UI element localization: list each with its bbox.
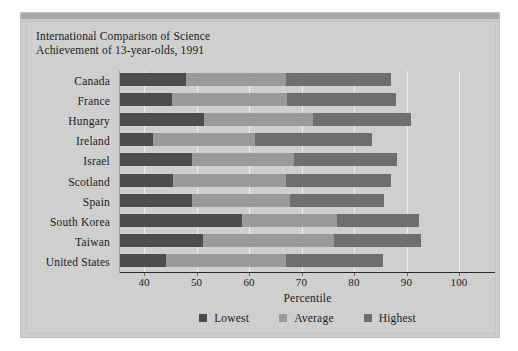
bar-segment-highest[interactable] <box>313 113 412 126</box>
legend-item-highest[interactable]: Highest <box>364 312 416 324</box>
chart-title-line-2: Achievement of 13-year-olds, 1991 <box>36 44 366 58</box>
chart-legend: LowestAverageHighest <box>120 312 495 324</box>
bar-segment-average[interactable] <box>242 214 337 227</box>
bar-row[interactable] <box>120 71 480 91</box>
bar-segment-highest[interactable] <box>286 73 391 86</box>
x-tick-label-50: 50 <box>177 276 217 288</box>
bar-segment-highest[interactable] <box>337 214 418 227</box>
legend-item-lowest[interactable]: Lowest <box>199 312 249 324</box>
bar-row[interactable] <box>120 232 480 252</box>
bar-row[interactable] <box>120 172 480 192</box>
bar-segment-average[interactable] <box>153 133 255 146</box>
legend-label: Highest <box>379 312 416 324</box>
bar-row[interactable] <box>120 111 480 131</box>
legend-item-average[interactable]: Average <box>279 312 334 324</box>
bar-segment-average[interactable] <box>166 254 286 267</box>
plot-area <box>120 71 480 272</box>
legend-swatch-average-icon <box>279 314 287 322</box>
legend-swatch-lowest-icon <box>199 314 207 322</box>
y-axis-label-canada: Canada <box>74 71 110 91</box>
plate-topbar <box>21 13 499 19</box>
bar-segment-lowest[interactable] <box>120 234 203 247</box>
bar-segment-lowest[interactable] <box>120 194 192 207</box>
bar-segment-lowest[interactable] <box>120 153 192 166</box>
bar-row[interactable] <box>120 151 480 171</box>
bar-row[interactable] <box>120 252 480 272</box>
x-tick-label-40: 40 <box>124 276 164 288</box>
bar-segment-highest[interactable] <box>287 93 396 106</box>
y-axis-label-hungary: Hungary <box>68 111 110 131</box>
bar-segment-highest[interactable] <box>286 174 391 187</box>
bar-segment-average[interactable] <box>186 73 287 86</box>
y-axis-label-south-korea: South Korea <box>50 212 110 232</box>
x-tick-label-60: 60 <box>229 276 269 288</box>
y-axis-label-france: France <box>78 91 111 111</box>
chart-plate: International Comparison of Science Achi… <box>21 13 499 337</box>
chart-title: International Comparison of Science Achi… <box>36 30 366 57</box>
bar-segment-highest[interactable] <box>286 254 383 267</box>
x-tick-label-80: 80 <box>334 276 374 288</box>
x-tick-label-90: 90 <box>387 276 427 288</box>
x-tick-label-100: 100 <box>439 276 479 288</box>
legend-swatch-highest-icon <box>364 314 372 322</box>
y-axis-label-ireland: Ireland <box>76 131 110 151</box>
bar-segment-average[interactable] <box>192 194 290 207</box>
bar-segment-highest[interactable] <box>255 133 373 146</box>
screenshot-root: International Comparison of Science Achi… <box>0 0 518 351</box>
bar-segment-lowest[interactable] <box>120 93 172 106</box>
bar-segment-lowest[interactable] <box>120 174 173 187</box>
y-axis-label-taiwan: Taiwan <box>75 232 110 252</box>
x-axis-title: Percentile <box>120 292 495 304</box>
x-axis-line <box>120 272 495 273</box>
chart-figure: International Comparison of Science Achi… <box>26 21 496 334</box>
y-axis-label-united-states: United States <box>46 252 110 272</box>
bar-row[interactable] <box>120 212 480 232</box>
bar-segment-lowest[interactable] <box>120 73 186 86</box>
bar-segment-average[interactable] <box>172 93 287 106</box>
bar-segment-average[interactable] <box>203 234 333 247</box>
bar-segment-average[interactable] <box>192 153 294 166</box>
y-axis-category-labels: CanadaFranceHungaryIrelandIsraelScotland… <box>27 71 115 272</box>
bar-segment-average[interactable] <box>204 113 312 126</box>
y-axis-label-scotland: Scotland <box>68 172 110 192</box>
bar-row[interactable] <box>120 131 480 151</box>
bar-segment-average[interactable] <box>173 174 286 187</box>
bar-segment-lowest[interactable] <box>120 214 242 227</box>
chart-title-line-1: International Comparison of Science <box>36 30 366 44</box>
bar-row[interactable] <box>120 91 480 111</box>
bar-segment-highest[interactable] <box>290 194 384 207</box>
legend-label: Average <box>294 312 334 324</box>
x-tick-label-70: 70 <box>282 276 322 288</box>
bar-segment-highest[interactable] <box>334 234 422 247</box>
bar-segment-highest[interactable] <box>294 153 397 166</box>
bar-row[interactable] <box>120 192 480 212</box>
legend-label: Lowest <box>214 312 249 324</box>
y-axis-label-israel: Israel <box>83 151 110 171</box>
bar-segment-lowest[interactable] <box>120 254 166 267</box>
y-axis-label-spain: Spain <box>83 192 110 212</box>
bar-segment-lowest[interactable] <box>120 133 153 146</box>
bar-segment-lowest[interactable] <box>120 113 204 126</box>
